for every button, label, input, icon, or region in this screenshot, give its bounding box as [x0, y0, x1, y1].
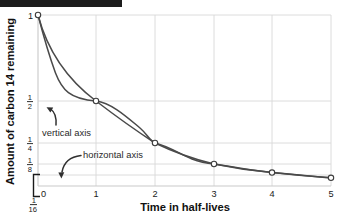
y-tick-label-one-sixteenth: 1 16 [29, 196, 37, 214]
y-tick-label-one-half: 1 2 [27, 93, 33, 111]
data-point [93, 98, 98, 103]
data-point [211, 161, 216, 166]
y-tick-label-one-quarter: 1 4 [27, 135, 33, 153]
y-tick-label-one-eighth: 1 8 [27, 156, 33, 174]
x-tick-label-1: 1 [93, 189, 98, 199]
x-tick-label-4: 4 [269, 189, 274, 199]
fraction-denominator: 16 [29, 205, 37, 214]
x-tick-label-0: 0 [41, 189, 46, 199]
y-tick-label-1: 1 [28, 11, 33, 21]
fraction-denominator: 4 [28, 144, 32, 153]
fraction-denominator: 8 [28, 165, 32, 174]
carbon-14-decay-figure: Amount of carbon 14 remaining 1 1 2 1 4 … [0, 0, 340, 217]
annotation-label-horizontal-axis: horizontal axis [83, 149, 143, 160]
data-point [328, 175, 333, 180]
data-point [35, 12, 40, 17]
fraction-numerator: 1 [28, 93, 32, 102]
annotation-label-vertical-axis: vertical axis [42, 127, 91, 138]
y-axis-title: Amount of carbon 14 remaining [4, 18, 16, 185]
decay-chart: Amount of carbon 14 remaining 1 1 2 1 4 … [0, 0, 340, 217]
plot-background [38, 15, 331, 186]
fraction-denominator: 2 [28, 102, 32, 111]
fraction-numerator: 1 [28, 135, 32, 144]
x-tick-label-5: 5 [328, 189, 333, 199]
x-tick-label-2: 2 [152, 189, 157, 199]
data-point [269, 170, 274, 175]
fraction-numerator: 1 [32, 196, 36, 205]
fraction-numerator: 1 [28, 156, 32, 165]
x-tick-label-3: 3 [211, 189, 216, 199]
data-point [152, 140, 157, 145]
x-axis-title: Time in half-lives [140, 201, 230, 213]
